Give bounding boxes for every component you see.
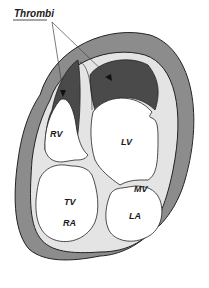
label-la: LA <box>129 211 141 221</box>
thrombi-label: Thrombi <box>14 8 54 19</box>
label-ra: RA <box>63 218 76 228</box>
heart-diagram: Thrombi RV LV TV MV RA LA <box>0 0 209 288</box>
label-mv: MV <box>134 184 148 194</box>
label-tv: TV <box>64 197 76 207</box>
label-lv: LV <box>121 137 133 147</box>
label-rv: RV <box>50 129 63 139</box>
